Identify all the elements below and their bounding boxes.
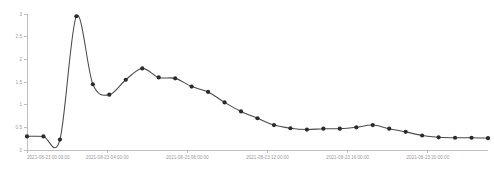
data-point-marker (124, 78, 128, 82)
x-tick-label: 2021-08-23 12:00:00 (246, 155, 289, 160)
data-point-marker (272, 123, 276, 127)
data-point-marker (469, 136, 473, 140)
line-chart-figure: 00.511.522.53 2021-08-23 00:00:002021-08… (0, 0, 494, 172)
chart-plot-area: 00.511.522.53 2021-08-23 00:00:002021-08… (0, 0, 494, 172)
data-point-marker (25, 134, 29, 138)
data-point-marker (91, 82, 95, 86)
data-point-marker (288, 126, 292, 130)
data-point-marker (338, 127, 342, 131)
data-point-marker (173, 76, 177, 80)
y-tick-label: 0 (19, 148, 22, 153)
x-axis-ticks: 2021-08-23 00:00:002021-08-23 04:00:0020… (27, 150, 450, 160)
data-point-marker (404, 130, 408, 134)
data-point-marker (140, 66, 144, 70)
data-point-marker (157, 75, 161, 79)
data-point-marker (420, 133, 424, 137)
data-point-marker (354, 125, 358, 129)
data-point-marker (206, 90, 210, 94)
series-line-value (27, 15, 488, 147)
data-point-marker (239, 109, 243, 113)
data-point-marker (41, 134, 45, 138)
data-point-marker (58, 137, 62, 141)
x-tick-label: 2021-08-23 20:00:00 (407, 155, 450, 160)
data-point-marker (371, 123, 375, 127)
y-tick-label: 0.5 (16, 125, 23, 130)
y-tick-label: 2 (19, 57, 22, 62)
data-point-marker (107, 93, 111, 97)
x-tick-label: 2021-08-23 04:00:00 (86, 155, 129, 160)
data-point-marker (387, 127, 391, 131)
y-tick-label: 3 (19, 12, 22, 17)
x-tick-label: 2021-08-23 08:00:00 (166, 155, 209, 160)
data-point-marker (321, 127, 325, 131)
y-tick-label: 1 (19, 102, 22, 107)
y-tick-label: 2.5 (16, 34, 23, 39)
data-point-marker (453, 136, 457, 140)
data-point-marker (190, 84, 194, 88)
x-tick-label: 2021-08-23 16:00:00 (326, 155, 369, 160)
data-point-marker (255, 116, 259, 120)
data-point-marker (305, 128, 309, 132)
x-tick-label: 2021-08-23 00:00:00 (27, 155, 70, 160)
data-point-marker (486, 136, 490, 140)
data-point-marker (74, 14, 78, 18)
data-point-marker (437, 135, 441, 139)
data-point-marker (222, 100, 226, 104)
y-axis-ticks: 00.511.522.53 (16, 12, 27, 153)
y-tick-label: 1.5 (16, 80, 23, 85)
series-markers (25, 14, 490, 142)
